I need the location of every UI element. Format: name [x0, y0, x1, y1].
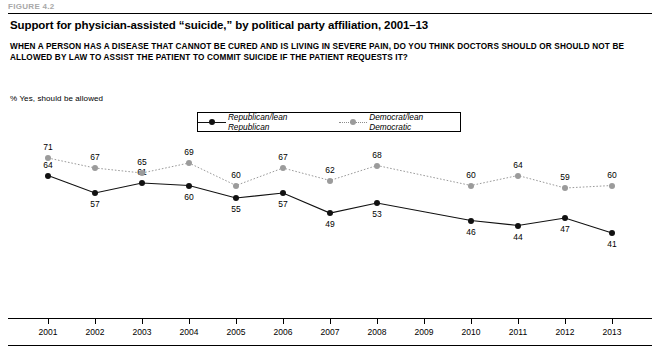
data-point [92, 165, 98, 171]
x-axis-tick [95, 319, 96, 324]
x-axis-tick [236, 319, 237, 324]
x-axis-label: 2010 [451, 327, 491, 337]
x-axis-label: 2013 [592, 327, 632, 337]
data-point [609, 183, 615, 189]
x-axis-tick [471, 319, 472, 324]
x-axis-tick [189, 319, 190, 324]
x-axis-tick [377, 319, 378, 324]
x-axis-tick [330, 319, 331, 324]
x-axis-tick [283, 319, 284, 324]
data-point [92, 190, 98, 196]
data-point [233, 183, 239, 189]
data-point [374, 200, 380, 206]
x-axis-label: 2004 [169, 327, 209, 337]
data-point [280, 190, 286, 196]
data-point [562, 185, 568, 191]
data-point-label: 44 [503, 232, 533, 242]
data-point [45, 173, 51, 179]
data-point [468, 183, 474, 189]
data-point-label: 67 [80, 152, 110, 162]
x-axis-label: 2009 [404, 327, 444, 337]
data-point-label: 68 [362, 150, 392, 160]
x-axis-label: 2012 [545, 327, 585, 337]
data-point-label: 69 [174, 147, 204, 157]
data-point [280, 165, 286, 171]
data-point-label: 60 [174, 192, 204, 202]
data-point [139, 170, 145, 176]
data-point [327, 178, 333, 184]
data-point-label: 67 [268, 152, 298, 162]
data-point-label: 53 [362, 209, 392, 219]
data-point [609, 230, 615, 236]
x-axis-label: 2008 [357, 327, 397, 337]
data-point [139, 180, 145, 186]
chart-plot-area: 2001200220032004200520062007200820092010… [0, 0, 660, 354]
data-point [45, 155, 51, 161]
x-axis-line [8, 318, 652, 319]
data-point-label: 46 [456, 227, 486, 237]
data-point-label: 65 [127, 157, 157, 167]
x-axis-tick [565, 319, 566, 324]
data-point [515, 173, 521, 179]
data-point-label: 59 [550, 172, 580, 182]
data-point-label: 41 [597, 239, 627, 249]
data-point [562, 215, 568, 221]
data-point-label: 71 [33, 142, 63, 152]
data-point [515, 223, 521, 229]
x-axis-label: 2002 [75, 327, 115, 337]
x-axis-tick [518, 319, 519, 324]
x-axis-label: 2007 [310, 327, 350, 337]
data-point-label: 64 [503, 160, 533, 170]
x-axis-label: 2006 [263, 327, 303, 337]
data-point-label: 62 [315, 165, 345, 175]
x-axis-label: 2001 [28, 327, 68, 337]
figure-container: FIGURE 4.2 Support for physician-assiste… [0, 0, 660, 354]
data-point [186, 160, 192, 166]
data-point-label: 55 [221, 204, 251, 214]
data-point-label: 60 [597, 170, 627, 180]
x-axis-tick [612, 319, 613, 324]
data-point [186, 183, 192, 189]
data-point-label: 49 [315, 219, 345, 229]
data-point [468, 218, 474, 224]
data-point [374, 163, 380, 169]
x-axis-label: 2011 [498, 327, 538, 337]
data-point-label: 57 [80, 199, 110, 209]
x-axis-label: 2005 [216, 327, 256, 337]
x-axis-tick [424, 319, 425, 324]
data-point [327, 210, 333, 216]
data-point-label: 47 [550, 224, 580, 234]
x-axis-label: 2003 [122, 327, 162, 337]
x-axis-tick [142, 319, 143, 324]
x-axis-tick [48, 319, 49, 324]
data-point [233, 195, 239, 201]
data-point-label: 57 [268, 199, 298, 209]
data-point-label: 60 [221, 170, 251, 180]
data-point-label: 64 [33, 160, 63, 170]
data-point-label: 60 [456, 170, 486, 180]
bottom-divider [8, 345, 652, 346]
